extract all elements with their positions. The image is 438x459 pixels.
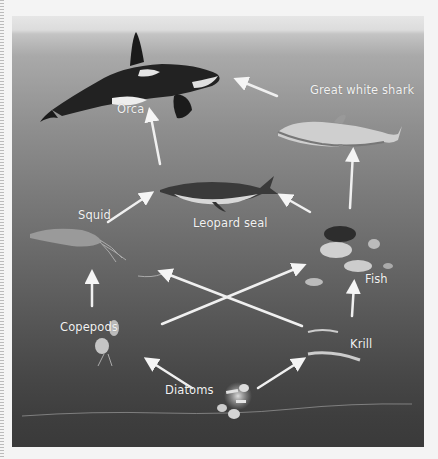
seabed-line	[22, 404, 412, 416]
arrow-krill-to-fish	[352, 284, 354, 316]
arrow-shark-to-orca	[238, 80, 277, 96]
label-orca: Orca	[117, 102, 144, 116]
leopard-seal-illustration	[160, 176, 278, 212]
label-fish: Fish	[365, 272, 388, 286]
arrow-copepods-to-fish	[162, 266, 302, 324]
shark-illustration	[278, 115, 402, 156]
arrow-seal-to-orca	[150, 112, 160, 164]
page-edge-dots	[0, 0, 4, 459]
arrow-diatoms-to-krill	[258, 360, 302, 388]
food-web-diagram: Orca Great white shark Leopard seal Squi…	[12, 16, 424, 447]
diagram-artwork	[12, 16, 424, 447]
squid-illustration	[30, 229, 162, 277]
label-squid: Squid	[78, 208, 111, 222]
label-copepods: Copepods	[60, 320, 118, 334]
label-leopard-seal: Leopard seal	[193, 216, 268, 230]
arrow-krill-to-squid	[162, 272, 302, 326]
label-krill: Krill	[350, 337, 372, 351]
arrow-fish-to-seal	[282, 196, 310, 212]
arrow-fish-to-shark	[350, 152, 353, 208]
label-great-white-shark: Great white shark	[310, 83, 414, 97]
label-diatoms: Diatoms	[165, 383, 214, 397]
arrow-squid-to-seal	[108, 194, 150, 222]
